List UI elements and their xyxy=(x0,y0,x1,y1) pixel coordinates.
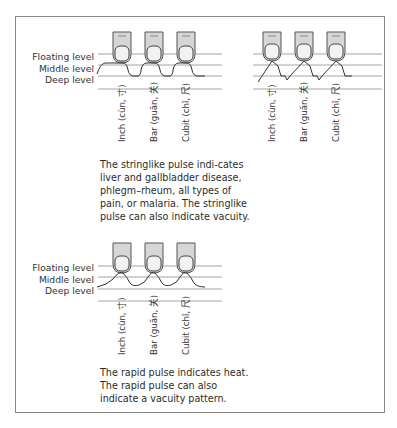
finger-bar xyxy=(145,243,163,273)
inch-label-panel3: Inch (cùn, 寸) xyxy=(115,297,127,355)
floating-level-label: Floating level xyxy=(14,51,94,63)
cubit-label-panel3: Cubit (chǐ, 尺) xyxy=(179,296,191,355)
middle-level-label: Middle level xyxy=(14,63,94,75)
deep-level-label: Deep level xyxy=(14,74,94,86)
level-labels-panel1: Floating level Middle level Deep level xyxy=(14,51,94,86)
stringlike-caption: The stringlike pulse indi-cates liver an… xyxy=(100,158,250,223)
rapid-caption: The rapid pulse indicates heat. The rapi… xyxy=(100,366,250,405)
deep-level-label: Deep level xyxy=(14,285,94,297)
finger-bar xyxy=(295,32,313,61)
finger-inch xyxy=(263,32,281,61)
finger-cubit xyxy=(327,32,345,61)
bar-label-panel1: Bar (guān, 关) xyxy=(147,82,159,142)
middle-level-label: Middle level xyxy=(14,274,94,286)
finger-inch xyxy=(113,32,131,63)
finger-cubit xyxy=(177,243,195,273)
finger-inch xyxy=(113,243,131,273)
bar-label-panel3: Bar (guān, 关) xyxy=(147,295,159,355)
bar-label-panel2: Bar (guān, 关) xyxy=(297,82,309,142)
pulse-diagram-rapid xyxy=(95,241,225,306)
finger-cubit xyxy=(177,32,195,63)
finger-bar xyxy=(145,32,163,63)
floating-level-label: Floating level xyxy=(14,262,94,274)
cubit-label-panel2: Cubit (chǐ, 尺) xyxy=(329,83,341,142)
inch-label-panel2: Inch (cùn, 寸) xyxy=(265,84,277,142)
inch-label-panel1: Inch (cùn, 寸) xyxy=(115,84,127,142)
cubit-label-panel1: Cubit (chǐ, 尺) xyxy=(179,83,191,142)
level-labels-panel3: Floating level Middle level Deep level xyxy=(14,262,94,297)
